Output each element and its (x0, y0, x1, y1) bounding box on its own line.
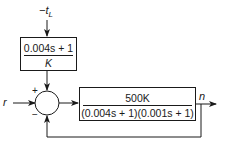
minus-sign: − (32, 110, 38, 120)
diagram-wires (0, 0, 225, 147)
reference-label: r (3, 97, 7, 108)
disturbance-block: 0.004s + 1 K (20, 37, 77, 71)
plant-block-denominator: (0.004s + 1)(0.001s + 1) (80, 108, 195, 119)
disturbance-label-subscript: L (48, 10, 52, 19)
disturbance-block-numerator: 0.004s + 1 (21, 43, 76, 54)
plant-block: 500K (0.004s + 1)(0.001s + 1) (79, 87, 196, 121)
output-label: n (199, 91, 205, 102)
plant-block-numerator: 500K (80, 93, 195, 104)
disturbance-block-denominator: K (21, 58, 76, 69)
disturbance-block-fraction-bar (24, 55, 73, 56)
plus-sign: + (32, 86, 38, 96)
plant-block-fraction-bar (83, 105, 192, 106)
disturbance-label: −tL (39, 5, 53, 20)
summing-junction (35, 91, 59, 115)
